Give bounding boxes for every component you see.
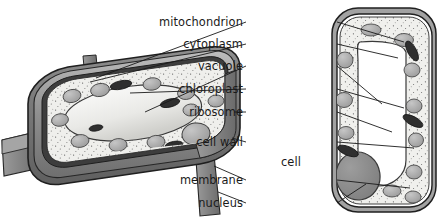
label-cell-membrane-line1: cell [281,155,301,169]
label-cytoplasm: cytoplasm [183,37,243,51]
label-vacuole: vacuole [198,59,243,73]
label-mitochondrion: mitochondrion [159,15,243,29]
label-cell-wall: cell wall [196,135,243,149]
label-ribosome: ribosome [189,105,243,119]
label-nucleus: nucleus [198,196,243,210]
cell-diagram: mitochondrion cytoplasm vacuole chloropl… [0,0,444,224]
label-chloroplast: chloroplast [179,82,243,96]
label-cell-membrane-line2: membrane [180,173,243,187]
